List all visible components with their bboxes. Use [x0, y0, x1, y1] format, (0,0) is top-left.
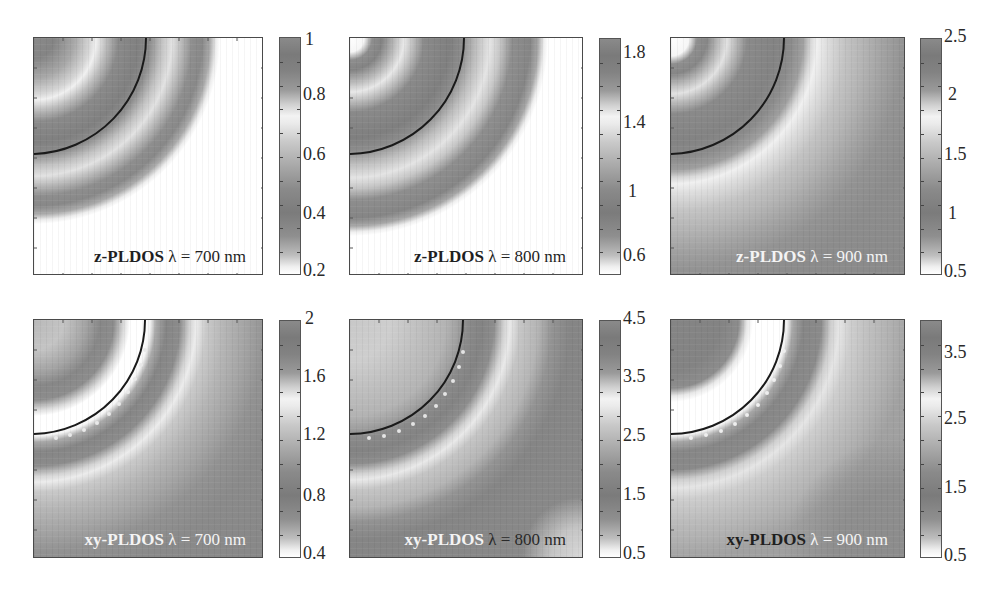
colorbar-tick-label: 1.6 — [303, 367, 326, 385]
colorbar-tick-mark — [617, 488, 620, 489]
colorbar-tick-mark — [600, 229, 603, 230]
heatmap-z-700-field — [34, 38, 262, 274]
heatmap-xy-700-field — [34, 320, 262, 557]
colorbar-tick-mark — [297, 488, 300, 489]
colorbar-tick-label: 1 — [628, 182, 637, 200]
heatmap-z-800: z-PLDOS λ = 800 nm — [349, 37, 583, 275]
colorbar-tick-mark — [617, 369, 620, 370]
colorbar-tick-mark — [280, 345, 283, 346]
colorbar-tick-mark — [921, 205, 924, 206]
colorbar-tick-mark — [921, 488, 924, 489]
colorbar-tick-mark — [600, 205, 603, 206]
colorbar-tick-mark — [617, 252, 620, 253]
colorbar-tick-mark — [938, 110, 941, 111]
colorbar-tick-mark — [297, 345, 300, 346]
colorbar-tick-mark — [921, 440, 924, 441]
colorbar-tick-mark — [297, 228, 300, 229]
colorbar-tick-mark — [921, 86, 924, 87]
colorbar-tick-label: 2 — [305, 309, 314, 327]
colorbar-tick-mark — [921, 134, 924, 135]
colorbar-tick-mark — [600, 464, 603, 465]
colorbar-tick-mark — [617, 205, 620, 206]
colorbar-tick-mark — [297, 133, 300, 134]
colorbar-tick-mark — [617, 229, 620, 230]
colorbar-tick-mark — [600, 488, 603, 489]
heatmap-z-800-field — [350, 38, 582, 274]
panel-label-quantity: xy-PLDOS — [85, 530, 164, 549]
panel-label: xy-PLDOS λ = 900 nm — [727, 530, 888, 550]
colorbar-tick-mark — [280, 440, 283, 441]
colorbar-tick-mark — [280, 181, 283, 182]
colorbar-tick-mark — [921, 464, 924, 465]
colorbar-tick-mark — [600, 535, 603, 536]
colorbar-tick-mark — [280, 416, 283, 417]
colorbar-tick-label: 0.5 — [944, 262, 967, 280]
colorbar-tick-mark — [921, 345, 924, 346]
colorbar-tick-mark — [921, 158, 924, 159]
colorbar-tick-label: 0.4 — [303, 544, 326, 562]
panel-label: xy-PLDOS λ = 800 nm — [405, 530, 566, 550]
panel-label-wavelength: λ = 900 nm — [806, 530, 888, 549]
colorbar-tick-mark — [921, 392, 924, 393]
colorbar-tick-mark — [617, 181, 620, 182]
panel-label-wavelength: λ = 800 nm — [484, 247, 566, 266]
heatmap-z-900: z-PLDOS λ = 900 nm — [670, 37, 905, 275]
colorbar-tick-mark — [600, 134, 603, 135]
colorbar-tick-label: 1 — [305, 30, 314, 48]
colorbar-tick-mark — [938, 345, 941, 346]
colorbar-xy-700 — [279, 320, 301, 558]
colorbar-tick-label: 2.5 — [944, 409, 967, 427]
colorbar-tick-mark — [280, 228, 283, 229]
colorbar-tick-mark — [938, 205, 941, 206]
colorbar-tick-label: 3.5 — [944, 343, 967, 361]
colorbar-tick-mark — [600, 86, 603, 87]
colorbar-tick-mark — [938, 392, 941, 393]
colorbar-tick-mark — [297, 86, 300, 87]
colorbar-tick-mark — [297, 416, 300, 417]
colorbar-tick-mark — [938, 511, 941, 512]
colorbar-tick-mark — [921, 511, 924, 512]
colorbar-tick-label: 2.5 — [623, 426, 646, 444]
colorbar-tick-mark — [280, 86, 283, 87]
colorbar-tick-label: 1.5 — [944, 478, 967, 496]
colorbar-tick-mark — [297, 62, 300, 63]
colorbar-tick-mark — [921, 110, 924, 111]
panel-label: z-PLDOS λ = 900 nm — [736, 247, 888, 267]
colorbar-tick-label: 0.6 — [623, 246, 646, 264]
panel-label-quantity: xy-PLDOS — [405, 530, 484, 549]
colorbar-tick-label: 0.2 — [303, 261, 326, 279]
colorbar-tick-mark — [280, 488, 283, 489]
colorbar-tick-label: 0.8 — [303, 85, 326, 103]
panel-label: z-PLDOS λ = 700 nm — [94, 247, 246, 267]
panel-label-wavelength: λ = 900 nm — [806, 247, 888, 266]
colorbar-tick-mark — [921, 416, 924, 417]
colorbar-tick-mark — [280, 133, 283, 134]
colorbar-tick-label: 0.8 — [303, 486, 326, 504]
colorbar-tick-mark — [600, 158, 603, 159]
colorbar-tick-mark — [280, 392, 283, 393]
colorbar-z-800 — [599, 38, 621, 275]
panel-label-quantity: xy-PLDOS — [727, 530, 806, 549]
heatmap-z-700: z-PLDOS λ = 700 nm — [33, 37, 263, 275]
colorbar-tick-mark — [617, 345, 620, 346]
colorbar-tick-mark — [600, 416, 603, 417]
colorbar-tick-mark — [938, 488, 941, 489]
colorbar-tick-mark — [600, 181, 603, 182]
colorbar-tick-mark — [297, 181, 300, 182]
colorbar-tick-mark — [297, 109, 300, 110]
colorbar-xy-900 — [920, 320, 942, 558]
colorbar-tick-label: 0.5 — [623, 544, 646, 562]
colorbar-tick-mark — [938, 369, 941, 370]
colorbar-z-700 — [279, 37, 301, 275]
colorbar-tick-mark — [617, 134, 620, 135]
colorbar-tick-mark — [280, 511, 283, 512]
colorbar-tick-mark — [280, 157, 283, 158]
colorbar-tick-mark — [280, 464, 283, 465]
heatmap-xy-800: xy-PLDOS λ = 800 nm — [349, 319, 583, 558]
colorbar-tick-mark — [938, 464, 941, 465]
panel-label: xy-PLDOS λ = 700 nm — [85, 530, 246, 550]
colorbar-tick-mark — [280, 205, 283, 206]
panel-label: z-PLDOS λ = 800 nm — [414, 247, 566, 267]
colorbar-tick-mark — [938, 440, 941, 441]
colorbar-tick-label: 1.8 — [623, 43, 646, 61]
